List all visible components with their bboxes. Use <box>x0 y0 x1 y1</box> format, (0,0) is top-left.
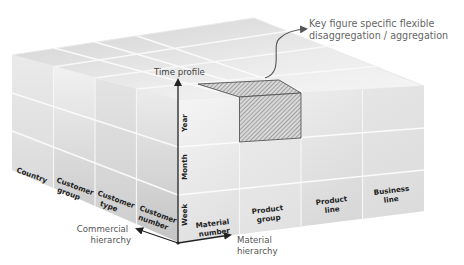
time-axis-label: Time profile <box>153 67 205 77</box>
level-year: Year <box>180 114 189 133</box>
time-levels: Week Month Year <box>180 114 189 226</box>
level-month: Month <box>180 154 189 180</box>
cube <box>12 18 424 242</box>
annotation-text: Key figure specific flexible disaggregat… <box>309 18 448 41</box>
olap-cube-diagram: Country Customer group Customer type Cus… <box>0 0 464 265</box>
level-week: Week <box>180 204 189 226</box>
commercial-axis-label: Commercial hierarchy <box>77 224 131 245</box>
material-axis-label: Material hierarchy <box>237 235 278 256</box>
